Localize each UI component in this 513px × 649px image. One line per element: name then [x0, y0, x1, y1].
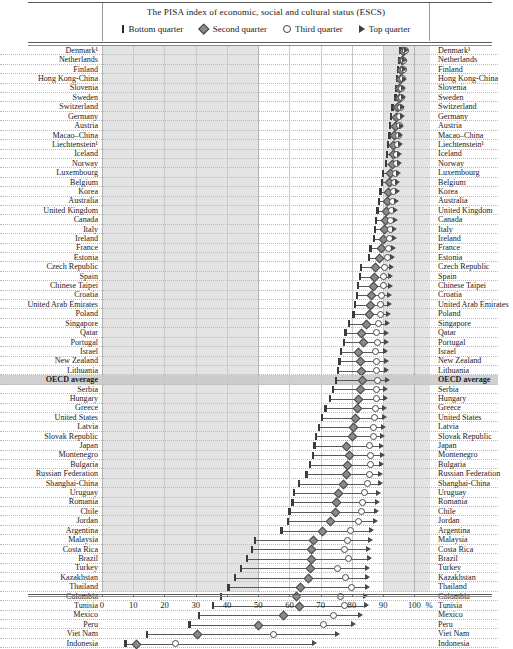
triangle-marker-icon: [382, 405, 387, 411]
country-label-left: Macao–China: [2, 131, 98, 140]
country-label-right: Lithuania: [438, 366, 513, 375]
chart-row: PortugalPortugal: [102, 338, 430, 347]
circle-marker-icon: [380, 273, 387, 280]
chart-row: Denmark¹Denmark¹: [102, 46, 430, 55]
country-label-left: Jordan: [2, 516, 98, 525]
country-label-right: Luxembourg: [438, 168, 513, 177]
bar-marker-icon: [335, 377, 337, 384]
country-label-right: Latvia: [438, 422, 513, 431]
country-label-left: Uruguay: [2, 488, 98, 497]
chart-row: SerbiaSerbia: [102, 385, 430, 394]
country-label-left: Iceland: [2, 149, 98, 158]
bar-marker-icon: [312, 452, 314, 459]
country-label-left: Serbia: [2, 385, 98, 394]
country-label-right: Poland: [438, 309, 513, 318]
country-label-right: Iceland: [438, 149, 513, 158]
country-label-left: Costa Rica: [2, 545, 98, 554]
axis-tick-label-100: 100: [408, 600, 421, 610]
country-label-right: Serbia: [438, 385, 513, 394]
bar-marker-icon: [291, 499, 293, 506]
bar-marker-icon: [375, 217, 377, 224]
header-rule: [28, 42, 492, 43]
triangle-marker-icon: [358, 612, 363, 618]
country-label-left: Spain: [2, 272, 98, 281]
circle-marker-icon: [172, 640, 179, 647]
country-label-right: Kazakhstan: [438, 573, 513, 582]
triangle-marker-icon: [389, 264, 394, 270]
country-label-right: Israel: [438, 347, 513, 356]
triangle-marker-icon: [388, 273, 393, 279]
country-label-left: Bulgaria: [2, 460, 98, 469]
chart-row: LithuaniaLithuania: [102, 366, 430, 375]
chart-row: Costa RicaCosta Rica: [102, 545, 430, 554]
triangle-marker-icon: [379, 461, 384, 467]
country-label-right: Costa Rica: [438, 545, 513, 554]
range-connector: [241, 568, 368, 569]
triangle-marker-icon: [397, 160, 402, 166]
triangle-marker-icon: [365, 584, 370, 590]
country-label-right: Turkey: [438, 563, 513, 572]
country-label-right: United Kingdom: [438, 206, 513, 215]
chart-row: Macao–ChinaMacao–China: [102, 131, 430, 140]
country-label-right: Brazil: [438, 554, 513, 563]
bar-marker-icon: [293, 489, 295, 496]
bar-marker-icon: [240, 565, 242, 572]
country-label-left: Slovenia: [2, 83, 98, 92]
country-label-right: Malaysia: [438, 535, 513, 544]
country-label-left: Austria: [2, 121, 98, 130]
country-label-left: Tunisia: [2, 601, 98, 610]
chart-row: LuxembourgLuxembourg: [102, 168, 430, 177]
chart-row: United StatesUnited States: [102, 413, 430, 422]
country-label-right: Indonesia: [438, 639, 513, 648]
country-label-left: Italy: [2, 225, 98, 234]
country-label-left: Netherlands: [2, 55, 98, 64]
country-label-right: Thailand: [438, 582, 513, 591]
axis-tick-label-40: 40: [223, 600, 232, 610]
axis-tick-100: [414, 594, 415, 597]
country-label-left: Sweden: [2, 93, 98, 102]
bar-marker-icon: [332, 386, 334, 393]
circle-marker-icon: [372, 348, 379, 355]
country-label-left: United States: [2, 413, 98, 422]
chart-row: EstoniaEstonia: [102, 253, 430, 262]
triangle-marker-icon: [395, 188, 400, 194]
circle-marker-icon: [377, 311, 384, 318]
country-label-left: Kazakhstan: [2, 573, 98, 582]
range-connector: [147, 634, 338, 635]
circle-marker-icon: [373, 395, 380, 402]
bar-marker-icon: [280, 527, 282, 534]
country-label-right: United States: [438, 413, 513, 422]
country-label-right: Viet Nam: [438, 629, 513, 638]
triangle-marker-icon: [384, 367, 389, 373]
triangle-marker-icon: [366, 546, 371, 552]
axis-tick-60: [289, 594, 290, 597]
circle-marker-icon: [372, 405, 379, 412]
country-label-left: Switzerland: [2, 102, 98, 111]
circle-marker-icon: [373, 329, 380, 336]
chart-row: Chinese TaipeiChinese Taipei: [102, 281, 430, 290]
chart-row: CanadaCanada: [102, 215, 430, 224]
country-label-left: United Arab Emirates: [2, 300, 98, 309]
triangle-marker-icon: [373, 518, 378, 524]
chart-row: BulgariaBulgaria: [102, 460, 430, 469]
triangle-marker-icon: [369, 527, 374, 533]
country-label-left: Mexico: [2, 610, 98, 619]
circle-marker-icon: [374, 339, 381, 346]
chart-row: UruguayUruguay: [102, 488, 430, 497]
triangle-marker-icon: [395, 179, 400, 185]
circle-marker-icon: [378, 292, 385, 299]
country-label-right: Sweden: [438, 93, 513, 102]
chart-row: ArgentinaArgentina: [102, 526, 430, 535]
axis-tick-40: [227, 594, 228, 597]
triangle-marker-icon: [359, 25, 365, 33]
chart-row: Viet NamViet Nam: [102, 629, 430, 638]
bar-marker-icon: [381, 179, 383, 186]
chart-row: ChileChile: [102, 507, 430, 516]
chart-row: SpainSpain: [102, 272, 430, 281]
chart-row: ThailandThailand: [102, 582, 430, 591]
country-label-right: Portugal: [438, 338, 513, 347]
country-label-right: Mexico: [438, 610, 513, 619]
chart-row: ItalyItaly: [102, 225, 430, 234]
chart-row: GermanyGermany: [102, 112, 430, 121]
triangle-marker-icon: [385, 377, 390, 383]
